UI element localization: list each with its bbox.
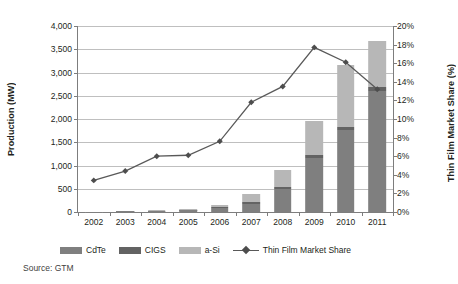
- x-tick-label: 2002: [84, 217, 103, 227]
- x-tick-label: 2009: [305, 217, 324, 227]
- chart-legend: CdTeCIGSa-SiThin Film Market Share: [60, 243, 405, 257]
- line-marker[interactable]: [122, 168, 128, 174]
- y-tick-label-left: 1,000: [12, 161, 72, 171]
- x-tick-label: 2003: [116, 217, 135, 227]
- x-tick-label: 2004: [147, 217, 166, 227]
- y-tick-label-left: 2,500: [12, 91, 72, 101]
- plot-area: 05001,0001,5002,0002,5003,0003,5004,000 …: [77, 26, 394, 212]
- legend-item[interactable]: Thin Film Market Share: [233, 245, 351, 255]
- y-tick-label-left: 500: [12, 184, 72, 194]
- legend-swatch-icon: [60, 247, 82, 254]
- y-tick-label-right: 8%: [397, 133, 437, 143]
- x-tick-label: 2007: [242, 217, 261, 227]
- x-tick-label: 2011: [368, 217, 386, 227]
- legend-swatch-icon: [179, 247, 201, 254]
- x-tick-mark: [330, 212, 331, 216]
- x-tick-mark: [267, 212, 268, 216]
- legend-item[interactable]: a-Si: [179, 245, 220, 255]
- y-tick-label-right: 0%: [397, 207, 437, 217]
- y-tick-label-right: 2%: [397, 188, 437, 198]
- x-tick-mark: [78, 212, 79, 216]
- x-tick-label: 2005: [179, 217, 198, 227]
- x-tick-mark: [141, 212, 142, 216]
- market-share-line: [78, 26, 393, 212]
- x-tick-mark: [362, 212, 363, 216]
- legend-line-marker-icon: [233, 246, 259, 255]
- x-tick-label: 2008: [273, 217, 292, 227]
- y-tick-label-left: 1,500: [12, 137, 72, 147]
- legend-item[interactable]: CIGS: [119, 245, 166, 255]
- y-axis-title-right: Thin Film Market Share (%): [446, 28, 456, 218]
- x-tick-mark: [236, 212, 237, 216]
- y-tick-label-left: 0: [12, 207, 72, 217]
- y-tick-label-right: 6%: [397, 151, 437, 161]
- y-tick-label-right: 4%: [397, 170, 437, 180]
- x-tick-mark: [204, 212, 205, 216]
- line-marker[interactable]: [91, 177, 97, 183]
- source-note: Source: GTM: [23, 263, 74, 273]
- y-tick-label-right: 14%: [397, 77, 437, 87]
- chart-figure: Production (MW) Thin Film Market Share (…: [0, 0, 458, 284]
- legend-label: a-Si: [205, 245, 220, 255]
- line-marker[interactable]: [154, 153, 160, 159]
- legend-label: CdTe: [86, 245, 106, 255]
- y-tick-label-right: 20%: [397, 21, 437, 31]
- x-tick-mark: [173, 212, 174, 216]
- legend-label: Thin Film Market Share: [263, 245, 351, 255]
- x-tick-mark: [393, 212, 394, 216]
- y-tick-label-right: 18%: [397, 40, 437, 50]
- x-tick-mark: [299, 212, 300, 216]
- y-tick-label-right: 12%: [397, 95, 437, 105]
- y-tick-label-right: 16%: [397, 58, 437, 68]
- legend-label: CIGS: [145, 245, 166, 255]
- y-tick-label-left: 3,500: [12, 44, 72, 54]
- y-tick-label-left: 2,000: [12, 114, 72, 124]
- y-tick-label-left: 3,000: [12, 68, 72, 78]
- line-marker[interactable]: [185, 152, 191, 158]
- y-tick-label-left: 4,000: [12, 21, 72, 31]
- x-tick-label: 2006: [210, 217, 229, 227]
- x-tick-label: 2010: [336, 217, 355, 227]
- y-tick-label-right: 10%: [397, 114, 437, 124]
- legend-item[interactable]: CdTe: [60, 245, 106, 255]
- legend-swatch-icon: [119, 247, 141, 254]
- line-path: [94, 47, 378, 180]
- x-tick-mark: [110, 212, 111, 216]
